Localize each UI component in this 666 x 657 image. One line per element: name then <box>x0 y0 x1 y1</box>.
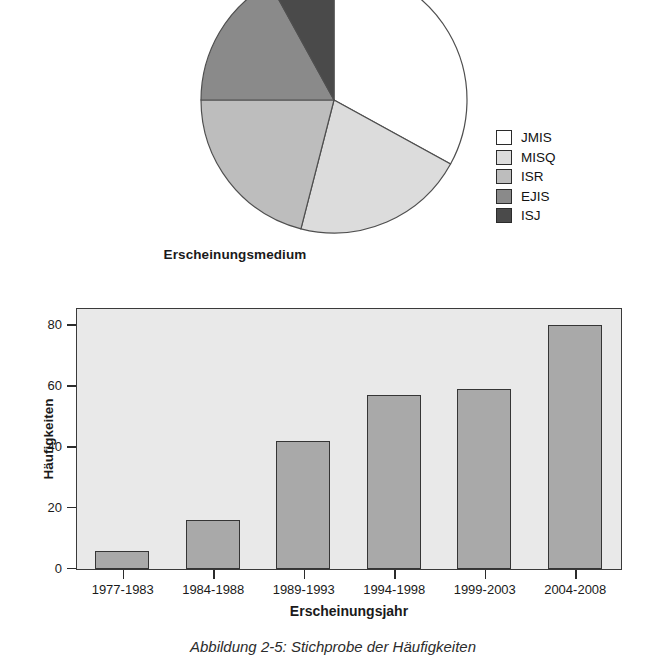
y-tick-label: 20 <box>48 500 62 515</box>
bar-chart-plot-area <box>76 308 622 570</box>
bar-1989-1993 <box>276 441 330 569</box>
legend-item-isr: ISR <box>496 167 556 187</box>
x-tick-mark <box>394 570 395 579</box>
bar-2004-2008 <box>548 325 602 569</box>
y-tick-mark <box>67 385 76 386</box>
bar-chart-block: Häufigkeiten 020406080 1977-19831984-198… <box>0 300 666 630</box>
bar-1994-1998 <box>367 395 421 569</box>
legend-label-isj: ISJ <box>521 209 541 223</box>
x-tick-label: 1984-1988 <box>182 582 244 597</box>
y-tick-label: 60 <box>48 378 62 393</box>
pie-chart-title: Erscheinungsmedium <box>0 247 470 262</box>
legend-label-jmis: JMIS <box>521 131 552 145</box>
x-tick-label: 1999-2003 <box>454 582 516 597</box>
figure-container: Erscheinungsmedium JMIS MISQ ISR EJIS IS… <box>0 0 666 657</box>
legend-swatch-isj <box>496 208 512 223</box>
legend-label-misq: MISQ <box>521 151 556 165</box>
figure-caption: Abbildung 2-5: Stichprobe der Häufigkeit… <box>0 638 666 655</box>
y-tick-mark <box>67 568 76 569</box>
bar-1977-1983 <box>95 551 149 569</box>
y-tick-mark <box>67 446 76 447</box>
legend-swatch-isr <box>496 169 512 184</box>
x-tick-mark <box>485 570 486 579</box>
x-tick-label: 2004-2008 <box>544 582 606 597</box>
x-axis-title: Erscheinungsjahr <box>76 603 622 619</box>
x-tick-mark <box>213 570 214 579</box>
pie-chart-block: Erscheinungsmedium JMIS MISQ ISR EJIS IS… <box>0 0 666 272</box>
legend-label-ejis: EJIS <box>521 190 550 204</box>
legend-item-jmis: JMIS <box>496 128 556 148</box>
y-tick-mark <box>67 507 76 508</box>
y-tick-label: 0 <box>55 561 62 576</box>
bar-1984-1988 <box>186 520 240 569</box>
legend-swatch-misq <box>496 150 512 165</box>
legend-item-ejis: EJIS <box>496 187 556 207</box>
y-tick-label: 80 <box>48 317 62 332</box>
bar-chart-y-axis: Häufigkeiten 020406080 <box>0 300 76 578</box>
x-tick-mark <box>575 570 576 579</box>
legend-item-misq: MISQ <box>496 148 556 168</box>
pie-chart-svg <box>198 0 470 236</box>
x-tick-label: 1989-1993 <box>273 582 335 597</box>
pie-chart-legend: JMIS MISQ ISR EJIS ISJ <box>496 128 556 226</box>
x-tick-label: 1994-1998 <box>363 582 425 597</box>
pie-slices <box>201 0 467 233</box>
legend-label-isr: ISR <box>521 170 544 184</box>
bar-1999-2003 <box>457 389 511 569</box>
x-tick-mark <box>123 570 124 579</box>
y-tick-mark <box>67 324 76 325</box>
x-tick-label: 1977-1983 <box>92 582 154 597</box>
legend-item-isj: ISJ <box>496 206 556 226</box>
x-tick-mark <box>304 570 305 579</box>
legend-swatch-jmis <box>496 130 512 145</box>
y-tick-label: 40 <box>48 439 62 454</box>
legend-swatch-ejis <box>496 189 512 204</box>
